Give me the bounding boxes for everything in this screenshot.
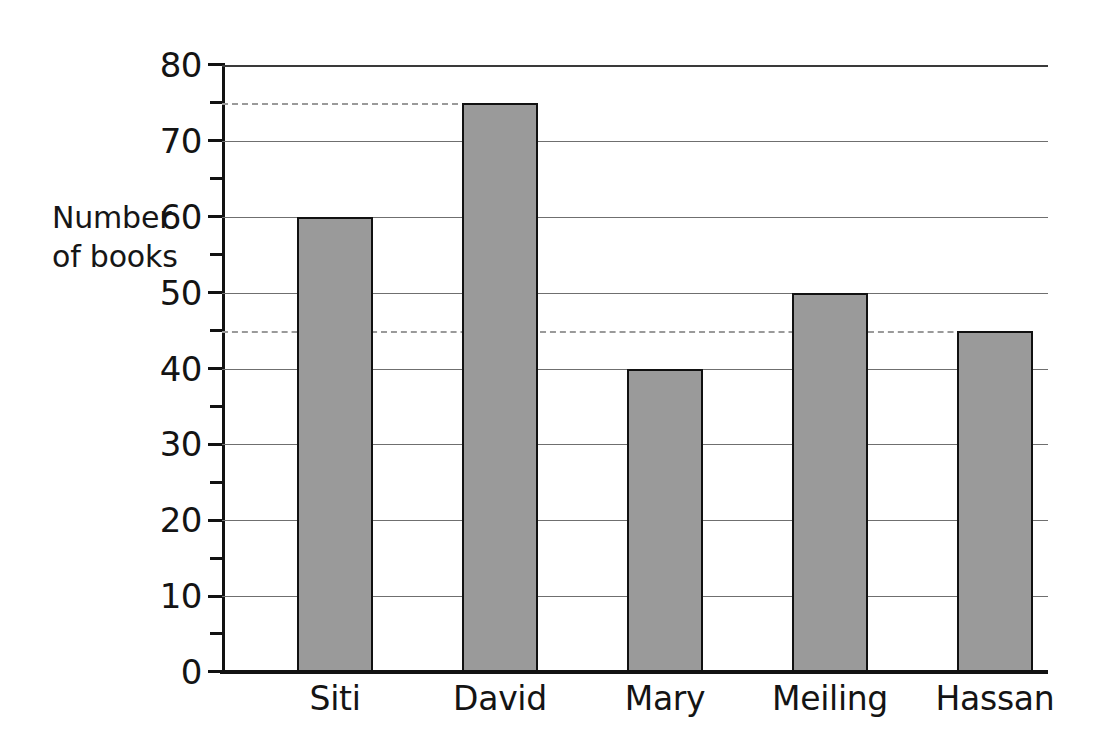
y-tick-label: 50: [116, 276, 202, 310]
plot-area: [222, 65, 1048, 672]
y-tick-label: 10: [116, 579, 202, 613]
bar: [792, 293, 868, 672]
bar: [462, 103, 538, 672]
x-tick-label: Siti: [245, 682, 425, 715]
bar-chart: Number of books 01020304050607080 SitiDa…: [0, 0, 1098, 752]
bar: [297, 217, 373, 672]
y-tick-label: 70: [116, 124, 202, 158]
x-tick-label: Hassan: [905, 682, 1085, 715]
y-tick-label: 0: [116, 655, 202, 689]
y-tick-label: 60: [116, 200, 202, 234]
y-tick-label: 80: [116, 48, 202, 82]
y-tick-label: 40: [116, 352, 202, 386]
gridline: [222, 65, 1048, 67]
bar: [627, 369, 703, 673]
gridline: [222, 141, 1048, 142]
y-tick-label: 30: [116, 427, 202, 461]
y-axis-tick-labels: 01020304050607080: [116, 0, 202, 752]
x-axis-category-labels: SitiDavidMaryMeilingHassan: [222, 682, 1048, 742]
x-tick-label: Mary: [575, 682, 755, 715]
y-tick-label: 20: [116, 503, 202, 537]
bar: [957, 331, 1033, 672]
x-tick-label: Meiling: [740, 682, 920, 715]
x-tick-label: David: [410, 682, 590, 715]
